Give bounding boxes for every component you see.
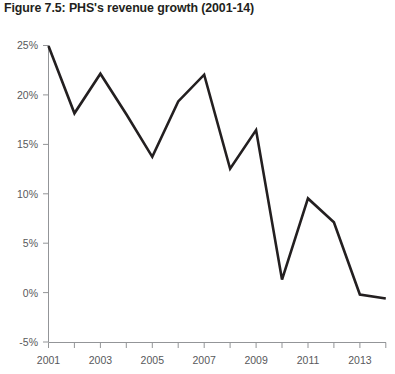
x-tick-label-2005: 2005	[141, 354, 164, 366]
line-chart-plot	[0, 0, 395, 374]
y-tick-label-15: 15%	[4, 138, 38, 150]
x-tick-label-2013: 2013	[348, 354, 371, 366]
y-tick-label-0: 0%	[4, 287, 38, 299]
y-tick-label-5: 5%	[4, 237, 38, 249]
y-tick-label-10: 10%	[4, 188, 38, 200]
y-tick-label-20: 20%	[4, 89, 38, 101]
y-tick-label-neg5: -5%	[4, 336, 38, 348]
figure-container: Figure 7.5: PHS's revenue growth (2001-1…	[0, 0, 395, 374]
x-tick-label-2007: 2007	[193, 354, 216, 366]
y-tick-label-25: 25%	[4, 39, 38, 51]
x-tick-label-2001: 2001	[37, 354, 60, 366]
x-tick-label-2003: 2003	[89, 354, 112, 366]
x-tick-label-2009: 2009	[244, 354, 267, 366]
x-axis-ticks	[49, 343, 386, 349]
x-tick-label-2011: 2011	[297, 354, 320, 366]
revenue-growth-line	[49, 46, 386, 298]
y-axis-ticks	[43, 46, 49, 343]
